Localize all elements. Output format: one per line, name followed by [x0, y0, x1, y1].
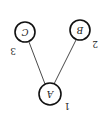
node-b: B 2: [70, 20, 98, 49]
node-c-number: 3: [10, 46, 16, 56]
node-a-number: 1: [64, 101, 70, 111]
node-b-number: 2: [92, 39, 98, 49]
node-b-label: B: [76, 25, 84, 35]
edge-a-c: [29, 42, 45, 84]
node-a-label: A: [46, 89, 54, 99]
tree-diagram: A 1 B 2 C 3: [0, 0, 105, 128]
node-c-label: C: [21, 27, 28, 37]
node-a: A 1: [39, 83, 70, 111]
node-c: C 3: [10, 22, 35, 56]
edge-a-b: [54, 40, 76, 84]
